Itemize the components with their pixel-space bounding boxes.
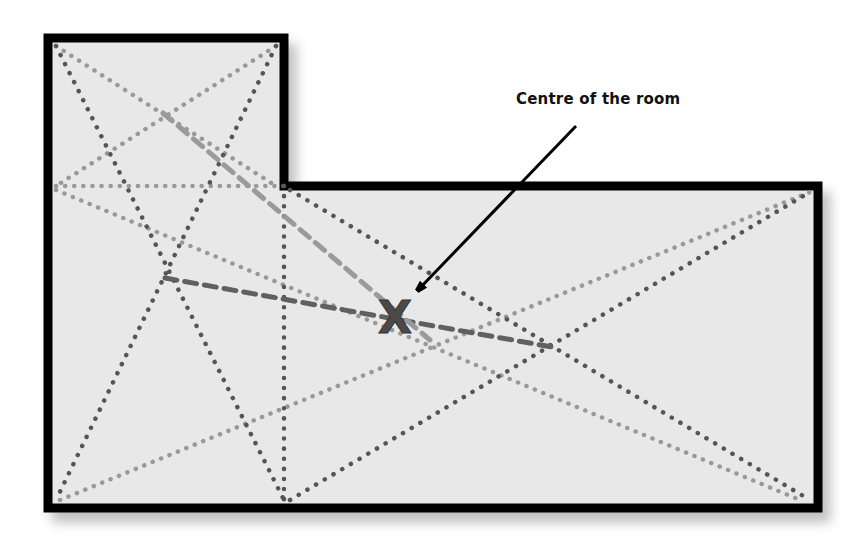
- room-diagram: X: [0, 0, 866, 547]
- centre-label: Centre of the room: [516, 90, 680, 108]
- diagram-canvas: X Centre of the room: [0, 0, 866, 547]
- centre-marker-icon: X: [378, 292, 412, 343]
- x-mark-icon: X: [378, 292, 412, 343]
